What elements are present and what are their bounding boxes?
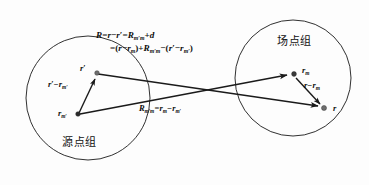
formula-line-1: R=r−r′=Rm′m+d bbox=[96, 29, 193, 42]
vector-decomposition-figure: R=r−r′=Rm′m+d =(r−rm)+Rm′m−(r′−rm′) 源点组 … bbox=[0, 0, 369, 185]
point-label-r-m: rm bbox=[302, 66, 309, 75]
point-label-r-field: r bbox=[333, 104, 336, 113]
figure-canvas bbox=[0, 0, 369, 185]
source-group-label: 源点组 bbox=[62, 137, 97, 148]
vector-label-rprime-minus-rmprime: r′−rm′ bbox=[48, 80, 68, 89]
point-dot-r-prime bbox=[95, 71, 100, 76]
vector-Rmprimem-rmprime-to-rm bbox=[80, 75, 287, 114]
point-dot-r-m-prime bbox=[76, 112, 81, 117]
formula-line-2: =(r−rm)+Rm′m−(r′−rm′) bbox=[96, 42, 193, 55]
point-dot-r-m bbox=[292, 72, 297, 77]
vector-label-r-minus-rm: r−rm bbox=[304, 81, 320, 90]
field-group-label: 场点组 bbox=[277, 36, 312, 47]
formula-block: R=r−r′=Rm′m+d =(r−rm)+Rm′m−(r′−rm′) bbox=[96, 29, 193, 55]
vector-rprime-minus-rmprime bbox=[79, 79, 95, 113]
point-label-r-m-prime: rm′ bbox=[58, 109, 67, 118]
point-dot-r-field bbox=[322, 106, 327, 111]
point-label-r-prime: r′ bbox=[80, 64, 86, 73]
vector-label-Rmprimem: Rm′m=rm−rm′ bbox=[139, 104, 181, 113]
